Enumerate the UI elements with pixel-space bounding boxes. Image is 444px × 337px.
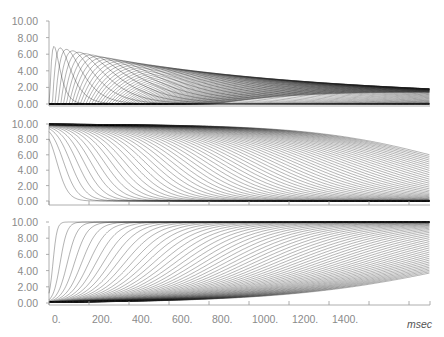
panel-top: 0.002.004.006.008.0010.00 — [12, 15, 430, 110]
chart-canvas: 0.002.004.006.008.0010.00 0.002.004.006.… — [0, 0, 444, 337]
x-tick-label: 800. — [212, 313, 232, 325]
y-tick-label: 4.00 — [18, 164, 39, 176]
x-tick-label: 600. — [172, 313, 192, 325]
y-tick-label: 0.00 — [18, 297, 39, 309]
y-tick-label: 8.00 — [18, 232, 39, 244]
series-curve — [49, 227, 429, 302]
panel-bottom: 0.002.004.006.008.0010.00 — [12, 216, 430, 309]
y-tick-label: 8.00 — [18, 133, 39, 145]
panel-middle: 0.002.004.006.008.0010.00 — [12, 118, 430, 207]
x-tick-label: 400. — [132, 313, 152, 325]
x-tick-label: 200. — [92, 313, 112, 325]
y-tick-label: 2.00 — [18, 180, 39, 192]
x-tick-label: 1200. — [292, 313, 318, 325]
curve-family — [49, 124, 429, 201]
x-axis-unit-label: msec — [407, 318, 433, 330]
curve-family — [49, 46, 429, 104]
y-tick-label: 4.00 — [18, 265, 39, 277]
y-tick-label: 2.00 — [18, 81, 39, 93]
curve-family — [49, 222, 429, 302]
y-tick-label: 6.00 — [18, 248, 39, 260]
series-curve — [49, 124, 429, 196]
y-tick-label: 10.00 — [12, 118, 38, 130]
y-tick-label: 10.00 — [12, 216, 38, 228]
series-curve — [49, 124, 429, 177]
y-tick-label: 6.00 — [18, 149, 39, 161]
x-tick-label: 0. — [52, 313, 61, 325]
series-curve — [49, 240, 429, 303]
x-tick-label: 1400. — [332, 313, 358, 325]
y-tick-label: 0.00 — [18, 195, 39, 207]
y-tick-label: 4.00 — [18, 65, 39, 77]
y-tick-label: 2.00 — [18, 281, 39, 293]
y-tick-label: 8.00 — [18, 32, 39, 44]
y-tick-label: 10.00 — [12, 15, 38, 27]
series-curve — [49, 132, 429, 201]
y-tick-label: 0.00 — [18, 98, 39, 110]
x-tick-label: 1000. — [252, 313, 278, 325]
y-tick-label: 6.00 — [18, 48, 39, 60]
